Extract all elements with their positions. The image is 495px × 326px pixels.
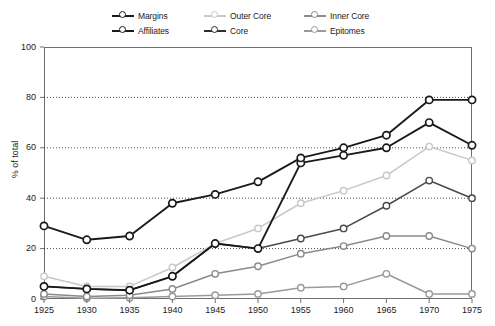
data-point (83, 236, 90, 243)
data-point (469, 291, 475, 297)
data-point (169, 273, 176, 280)
data-point (383, 144, 390, 151)
data-point (426, 96, 433, 103)
data-point (469, 195, 475, 201)
data-point (297, 154, 304, 161)
chart-canvas (0, 0, 495, 326)
data-point (340, 283, 346, 289)
data-point (255, 291, 261, 297)
data-point (469, 157, 475, 163)
x-tick-label: 1930 (69, 306, 105, 315)
y-tick-label: 20 (10, 244, 36, 253)
data-point (383, 271, 389, 277)
data-point (84, 293, 90, 299)
data-point (298, 250, 304, 256)
data-point (340, 144, 347, 151)
data-point (298, 284, 304, 290)
data-point (41, 273, 47, 279)
data-point (254, 178, 261, 185)
x-tick-label: 1960 (326, 306, 362, 315)
data-point (426, 177, 432, 183)
data-point (340, 152, 347, 159)
data-point (40, 222, 47, 229)
data-point (340, 243, 346, 249)
line-chart: Margins Affiliates Outer Core Core (0, 0, 495, 326)
data-point (83, 285, 90, 292)
data-point (469, 245, 475, 251)
y-tick-label: 100 (10, 43, 36, 52)
x-tick-label: 1935 (112, 306, 148, 315)
data-point (426, 119, 433, 126)
data-point (212, 191, 219, 198)
y-tick-label: 0 (10, 295, 36, 304)
data-point (383, 233, 389, 239)
data-point (468, 96, 475, 103)
data-point (255, 263, 261, 269)
data-point (41, 291, 47, 297)
data-point (383, 132, 390, 139)
data-point (383, 203, 389, 209)
x-tick-label: 1975 (454, 306, 490, 315)
data-point (426, 233, 432, 239)
data-point (169, 293, 175, 299)
y-tick-label: 60 (10, 143, 36, 152)
y-tick-label: 40 (10, 194, 36, 203)
data-point (212, 292, 218, 298)
data-point (40, 283, 47, 290)
data-point (169, 264, 175, 270)
data-point (169, 286, 175, 292)
data-point (126, 232, 133, 239)
data-point (126, 287, 133, 294)
data-point (255, 225, 261, 231)
x-tick-label: 1925 (26, 306, 62, 315)
x-tick-label: 1945 (197, 306, 233, 315)
data-point (254, 245, 261, 252)
series-layer (40, 96, 475, 301)
data-point (298, 200, 304, 206)
data-point (340, 187, 346, 193)
x-tick-label: 1965 (368, 306, 404, 315)
data-point (212, 271, 218, 277)
data-point (426, 291, 432, 297)
data-point (169, 200, 176, 207)
y-tick-label: 80 (10, 93, 36, 102)
data-point (468, 142, 475, 149)
x-tick-label: 1950 (240, 306, 276, 315)
data-point (340, 225, 346, 231)
data-point (383, 172, 389, 178)
series-line-margins (44, 100, 472, 240)
x-tick-label: 1970 (411, 306, 447, 315)
x-tick-label: 1940 (154, 306, 190, 315)
data-point (212, 240, 219, 247)
data-point (426, 143, 432, 149)
data-point (298, 235, 304, 241)
x-tick-label: 1955 (283, 306, 319, 315)
